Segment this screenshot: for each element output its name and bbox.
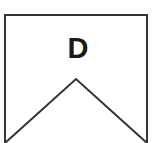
notched-banner-shape bbox=[0, 0, 156, 143]
pennant-shape-diagram: D bbox=[0, 0, 156, 143]
shape-label: D bbox=[0, 33, 156, 63]
